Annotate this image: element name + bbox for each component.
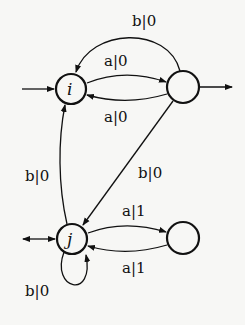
label-q1-j-b0: b|0 <box>138 164 162 182</box>
edge-q1-i-a0 <box>87 94 167 100</box>
label-top-b0: b|0 <box>132 12 156 30</box>
label-i-q1-a0: a|0 <box>104 52 128 70</box>
label-loop-b0: b|0 <box>25 282 49 300</box>
edge-q1-i-b0 <box>76 38 180 72</box>
edge-j-j-b0 <box>61 252 87 285</box>
state-i-label: i <box>67 79 72 99</box>
label-j-q3-a1: a|1 <box>122 202 146 220</box>
state-q3 <box>167 222 199 254</box>
edge-j-i-b0 <box>60 105 67 224</box>
label-q1-i-a0: a|0 <box>104 108 128 126</box>
edge-q3-j-a1 <box>88 245 167 251</box>
state-diagram: i j b|0 a|0 a|0 b|0 b|0 a|1 a|1 b|0 <box>0 0 245 325</box>
edge-i-q1-a0 <box>87 75 166 83</box>
edge-j-q3-a1 <box>88 226 166 233</box>
label-j-i-b0: b|0 <box>25 167 49 185</box>
label-q3-j-a1: a|1 <box>122 259 146 277</box>
state-q1 <box>167 71 199 103</box>
state-j-label: j <box>63 229 73 249</box>
